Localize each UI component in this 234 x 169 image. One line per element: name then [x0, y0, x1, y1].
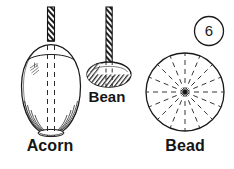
figure-illustration: Acorn Bean Bead 6 — [0, 0, 234, 169]
figure-number-badge: 6 — [196, 18, 222, 44]
bean-drill-icon — [106, 7, 112, 63]
bead-center-hole — [183, 90, 187, 94]
specimen-label-bean: Bean — [78, 88, 136, 105]
specimen-label-acorn: Acorn — [0, 137, 100, 155]
specimen-label-bead: Bead — [141, 137, 229, 155]
bean-shape — [87, 61, 131, 87]
acorn-drill-icon — [48, 7, 55, 41]
acorn-shape — [22, 45, 81, 137]
bead-shape — [145, 52, 225, 132]
